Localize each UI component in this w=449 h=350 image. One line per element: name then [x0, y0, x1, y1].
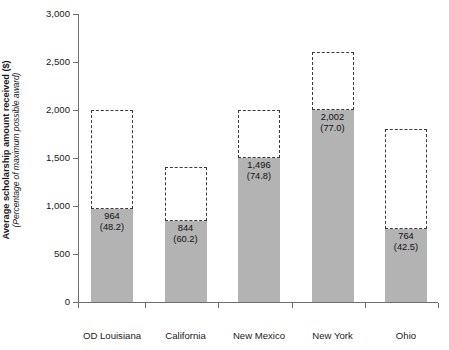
x-axis-tick: [78, 303, 79, 308]
bar-max-award-outline: [312, 52, 354, 109]
x-axis-line: [78, 302, 438, 303]
bar-value-label: 764: [398, 231, 414, 241]
bar-percent-label: (48.2): [83, 222, 141, 233]
y-axis-tick: [73, 254, 78, 255]
bar-value-label: 964: [104, 211, 120, 221]
x-axis-category-label: Ohio: [361, 330, 449, 341]
y-axis-title-main: Average scholarship amount received ($): [0, 0, 11, 300]
bar-percent-label: (77.0): [304, 123, 362, 134]
bar-value-label: 1,496: [247, 160, 270, 170]
bar-max-award-outline: [238, 110, 280, 158]
bar-data-label: 764(42.5): [377, 231, 435, 253]
bar-average-amount: [312, 110, 354, 302]
bar-value-label: 2,002: [321, 112, 344, 122]
x-axis-tick: [438, 303, 439, 308]
y-axis-tick: [73, 158, 78, 159]
y-axis-tick-label: 0: [30, 296, 70, 307]
bar-value-label: 844: [178, 223, 194, 233]
y-axis-tick-label: 1,500: [30, 152, 70, 163]
y-axis-tick: [73, 62, 78, 63]
y-axis-tick-label: 500: [30, 248, 70, 259]
bar-chart: Average scholarship amount received ($) …: [0, 0, 449, 350]
y-axis-tick: [73, 110, 78, 111]
y-axis-tick-label: 2,000: [30, 104, 70, 115]
bar-percent-label: (42.5): [377, 242, 435, 253]
y-axis-tick: [73, 14, 78, 15]
bar-data-label: 1,496(74.8): [230, 160, 288, 182]
bar-data-label: 844(60.2): [157, 223, 215, 245]
bar-max-award-outline: [91, 110, 133, 209]
y-axis-title: Average scholarship amount received ($) …: [0, 0, 30, 310]
y-axis-title-subtitle: (Percentage of maximum possible award): [11, 0, 22, 300]
x-axis-tick: [292, 303, 293, 308]
bar-percent-label: (60.2): [157, 234, 215, 245]
bar-max-award-outline: [385, 129, 427, 228]
plot-area: 05001,0001,5002,0002,5003,000 964(48.2)8…: [78, 14, 438, 302]
x-axis-tick: [145, 303, 146, 308]
x-axis-tick: [218, 303, 219, 308]
bar-percent-label: (74.8): [230, 171, 288, 182]
y-axis-line: [78, 14, 79, 302]
bar-data-label: 2,002(77.0): [304, 112, 362, 134]
x-axis-tick: [365, 303, 366, 308]
bar-max-award-outline: [165, 167, 207, 221]
bar-data-label: 964(48.2): [83, 211, 141, 233]
y-axis-tick-label: 2,500: [30, 56, 70, 67]
y-axis-tick-label: 3,000: [30, 8, 70, 19]
y-axis-tick: [73, 206, 78, 207]
y-axis-tick-label: 1,000: [30, 200, 70, 211]
